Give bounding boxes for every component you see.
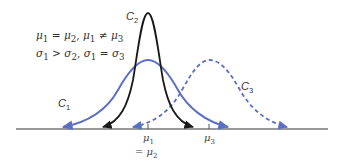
label-c2: C2: [126, 10, 138, 25]
curve-name: C: [126, 10, 134, 22]
curve-name: C: [241, 80, 249, 92]
curve-sub: 2: [134, 16, 138, 25]
label-c3: C3: [241, 80, 253, 95]
curve-sub: 3: [249, 86, 253, 95]
curve-sub: 1: [66, 103, 70, 112]
condition-line-1: μ1 = μ2, μ1 ≠ μ3: [36, 28, 125, 46]
relation: ≠: [95, 29, 110, 41]
relation: =: [48, 29, 63, 41]
subscript: 1: [150, 138, 154, 146]
mu-symbol: μ: [36, 29, 43, 41]
mu-symbol: μ: [64, 29, 71, 41]
mu-symbol: μ: [111, 29, 118, 41]
curve-name: C: [58, 97, 66, 109]
relation: >: [49, 47, 64, 59]
sigma-symbol: σ: [112, 47, 119, 59]
subscript: 3: [211, 138, 215, 146]
curve-c3: [133, 60, 287, 127]
axis-label-mu3: μ3: [204, 132, 215, 146]
subscript: 2: [153, 152, 157, 160]
separator: ,: [76, 29, 83, 41]
subscript: 3: [119, 52, 125, 62]
axis-label-mu1: μ1: [143, 132, 154, 146]
equals: =: [135, 146, 147, 157]
axis-label-eq-mu2: = μ2: [135, 146, 158, 160]
curve-c1: [63, 60, 228, 127]
relation: =: [96, 47, 111, 59]
separator: ,: [77, 47, 84, 59]
normal-curves-diagram: [0, 0, 343, 168]
mu-symbol: μ: [83, 29, 90, 41]
label-c1: C1: [58, 97, 70, 112]
sigma-symbol: σ: [84, 47, 91, 59]
condition-line-2: σ1 > σ2, σ1 = σ3: [36, 46, 125, 64]
subscript: 3: [118, 34, 124, 44]
conditions-text: μ1 = μ2, μ1 ≠ μ3 σ1 > σ2, σ1 = σ3: [36, 28, 125, 64]
